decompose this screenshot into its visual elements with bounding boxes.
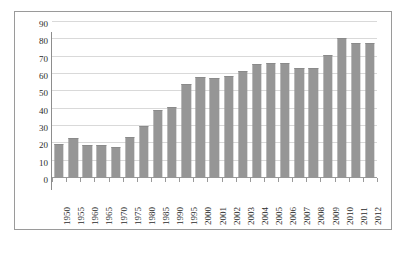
x-tick-label-1955: 1955	[77, 207, 86, 225]
x-tick-label-2000: 2000	[204, 207, 213, 225]
bar-slot	[306, 22, 320, 178]
bar	[266, 63, 275, 178]
bar-slot	[151, 22, 165, 178]
x-tick-mark	[52, 178, 53, 182]
bar	[167, 107, 176, 178]
x-tick-mark	[222, 178, 223, 182]
x-tick-mark	[109, 178, 110, 182]
bar	[153, 110, 162, 178]
bar	[139, 126, 148, 178]
x-tick-mark	[377, 178, 378, 182]
x-tick-label-2011: 2011	[360, 207, 369, 225]
bar-slot	[193, 22, 207, 178]
bar-slot	[250, 22, 264, 178]
bar	[111, 147, 120, 178]
bar	[365, 43, 374, 178]
y-tick-label-60: 60	[18, 72, 48, 81]
bar	[337, 38, 346, 178]
bar-slot	[123, 22, 137, 178]
bar	[309, 68, 318, 178]
x-tick-label-2008: 2008	[317, 207, 326, 225]
y-axis-tick-labels: 9080706050403020100	[15, 33, 48, 189]
x-tick-label-2009: 2009	[332, 207, 341, 225]
bar	[238, 71, 247, 178]
x-tick-mark	[137, 178, 138, 182]
y-tick-label-80: 80	[18, 37, 48, 46]
y-tick-label-0: 0	[18, 176, 48, 185]
bar-slot	[278, 22, 292, 178]
plot-area	[52, 22, 377, 178]
y-tick-label-20: 20	[18, 141, 48, 150]
x-tick-label-2010: 2010	[346, 207, 355, 225]
y-tick-label-30: 30	[18, 124, 48, 133]
bar-slot	[94, 22, 108, 178]
bar	[69, 138, 78, 178]
bar-slot	[222, 22, 236, 178]
x-tick-label-1950: 1950	[63, 207, 72, 225]
x-tick-mark	[292, 178, 293, 182]
bar-slot	[320, 22, 334, 178]
bar-slot	[363, 22, 377, 178]
x-tick-mark	[66, 178, 67, 182]
x-tick-mark	[179, 178, 180, 182]
bar	[182, 84, 191, 178]
x-tick-mark	[236, 178, 237, 182]
x-tick-label-1980: 1980	[148, 207, 157, 225]
x-tick-label-2001: 2001	[219, 207, 228, 225]
bar	[196, 77, 205, 178]
bar-slot	[349, 22, 363, 178]
bar-slot	[165, 22, 179, 178]
x-tick-mark	[80, 178, 81, 182]
x-tick-label-1965: 1965	[105, 207, 114, 225]
x-tick-label-1970: 1970	[120, 207, 129, 225]
x-tick-mark	[320, 178, 321, 182]
x-tick-label-2003: 2003	[247, 207, 256, 225]
bar	[280, 63, 289, 178]
x-tick-mark	[250, 178, 251, 182]
bar	[83, 145, 92, 178]
x-tick-mark	[306, 178, 307, 182]
y-tick-label-10: 10	[18, 158, 48, 167]
bar-slot	[264, 22, 278, 178]
bar	[125, 137, 134, 178]
bar-slot	[52, 22, 66, 178]
x-tick-mark	[193, 178, 194, 182]
y-tick-label-40: 40	[18, 106, 48, 115]
x-tick-label-2012: 2012	[374, 207, 383, 225]
x-tick-label-1995: 1995	[190, 207, 199, 225]
x-tick-mark	[278, 178, 279, 182]
x-tick-label-2002: 2002	[233, 207, 242, 225]
y-tick-label-70: 70	[18, 54, 48, 63]
x-tick-label-1960: 1960	[91, 207, 100, 225]
bar-slot	[292, 22, 306, 178]
bar	[54, 144, 63, 178]
x-tick-mark	[207, 178, 208, 182]
bar-series	[52, 22, 377, 178]
bar	[97, 145, 106, 178]
bar	[295, 68, 304, 178]
x-axis-tick-marks	[52, 178, 377, 182]
bar	[323, 55, 332, 178]
chart-frame: 9080706050403020100 19501955196019651970…	[14, 11, 392, 230]
x-tick-mark	[349, 178, 350, 182]
x-tick-label-2007: 2007	[303, 207, 312, 225]
bar-slot	[80, 22, 94, 178]
x-tick-mark	[94, 178, 95, 182]
bar-slot	[179, 22, 193, 178]
x-tick-mark	[123, 178, 124, 182]
bar-slot	[137, 22, 151, 178]
x-tick-label-2004: 2004	[261, 207, 270, 225]
x-axis-tick-labels: 1950195519601965197019751980198519901995…	[52, 183, 377, 227]
x-tick-mark	[363, 178, 364, 182]
bar-slot	[66, 22, 80, 178]
x-tick-label-2005: 2005	[275, 207, 284, 225]
bar	[224, 76, 233, 178]
bar-slot	[207, 22, 221, 178]
bar-slot	[335, 22, 349, 178]
x-tick-label-1990: 1990	[176, 207, 185, 225]
x-tick-label-1985: 1985	[162, 207, 171, 225]
x-tick-label-2006: 2006	[289, 207, 298, 225]
y-tick-label-50: 50	[18, 89, 48, 98]
x-tick-mark	[165, 178, 166, 182]
x-tick-label-1975: 1975	[134, 207, 143, 225]
